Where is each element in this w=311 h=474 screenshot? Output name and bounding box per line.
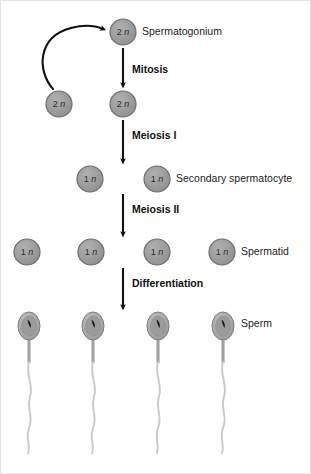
ploidy-value-spermatid-3: 1 [151, 247, 156, 257]
ploidy-value-secondary-left: 1 [84, 174, 89, 184]
cell-spermatid-2: 1 n [78, 239, 104, 265]
svg-text:2 n: 2 n [117, 99, 130, 109]
svg-text:1 n: 1 n [84, 174, 97, 184]
cell-spermatid-3: 1 n [144, 239, 170, 265]
stage-label-mitosis: Mitosis [132, 63, 168, 75]
stage-label-meiosis-ii: Meiosis II [132, 203, 179, 215]
cell-secondary-spermatocyte-left: 1 n [77, 166, 103, 192]
stage-label-meiosis-i: Meiosis I [132, 129, 176, 141]
cell-secondary-spermatocyte-right: 1 n [144, 166, 170, 192]
cell-spermatogonium: 2 n [110, 19, 136, 45]
svg-text:2 n: 2 n [117, 27, 130, 37]
ploidy-value-spermatogonium: 2 [117, 27, 122, 37]
cell-spermatid-4: 1 n [209, 239, 235, 265]
spermatogenesis-diagram: Mitosis Meiosis I Meiosis II Differentia… [0, 0, 311, 474]
stage-label-differentiation: Differentiation [132, 277, 203, 289]
ploidy-value-spermatid-1: 1 [21, 247, 26, 257]
svg-text:2 n: 2 n [53, 99, 66, 109]
cell-spermatid-1: 1 n [14, 239, 40, 265]
svg-text:1 n: 1 n [216, 247, 229, 257]
cell-label-sperm: Sperm [241, 317, 272, 329]
cell-primary-spermatocyte-2n: 2 n [110, 91, 136, 117]
svg-text:1 n: 1 n [151, 247, 164, 257]
ploidy-value-secondary-right: 1 [151, 174, 156, 184]
svg-text:1 n: 1 n [21, 247, 34, 257]
ploidy-value-primary-2n: 2 [117, 99, 122, 109]
ploidy-value-spermatid-4: 1 [216, 247, 221, 257]
ploidy-value-spermatid-2: 1 [85, 247, 90, 257]
cell-label-spermatid: Spermatid [241, 245, 289, 257]
cell-stem-2n: 2 n [46, 91, 72, 117]
self-renewal-arrow [43, 26, 103, 89]
cell-label-spermatogonium: Spermatogonium [142, 25, 222, 37]
sperm-cell-1 [18, 312, 40, 453]
cell-label-secondary-spermatocyte: Secondary spermatocyte [176, 172, 292, 184]
diagram-canvas: Mitosis Meiosis I Meiosis II Differentia… [1, 1, 311, 474]
svg-text:1 n: 1 n [85, 247, 98, 257]
ploidy-value-stem-2n: 2 [53, 99, 58, 109]
sperm-cell-4 [212, 312, 234, 453]
svg-text:1 n: 1 n [151, 174, 164, 184]
sperm-cell-2 [82, 312, 104, 453]
sperm-cell-3 [147, 312, 169, 453]
